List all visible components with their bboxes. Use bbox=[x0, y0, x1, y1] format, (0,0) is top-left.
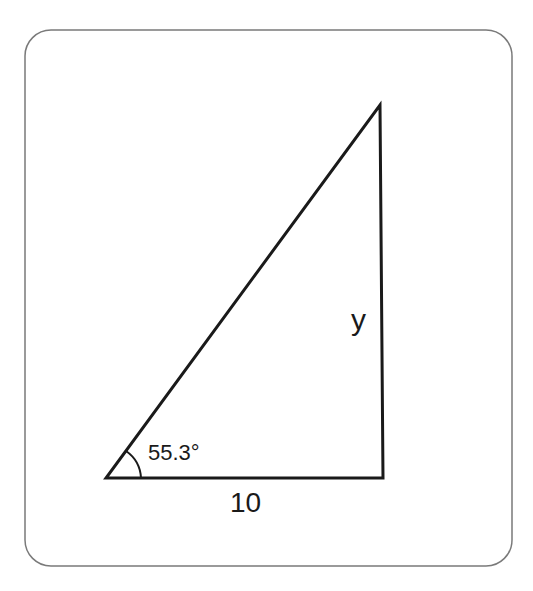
frame-border bbox=[25, 30, 512, 566]
triangle-diagram: 55.3° 10 y bbox=[0, 0, 533, 591]
angle-label: 55.3° bbox=[148, 440, 200, 465]
side-label: y bbox=[351, 303, 366, 336]
base-label: 10 bbox=[230, 487, 261, 518]
